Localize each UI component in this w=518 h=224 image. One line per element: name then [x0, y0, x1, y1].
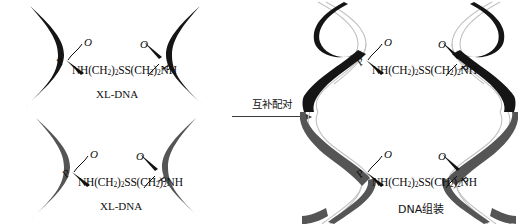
- panel-bottom-left-xl-dna: P O P O NH(CH2)2SS(CH2)2NH: [0, 112, 230, 224]
- caption-top-left: XL-DNA: [96, 88, 138, 100]
- panel-top-right-assembly: P O P O NH(CH2)2SS(CH2)2NH: [300, 0, 518, 112]
- crosslinker-formula: NH(CH2)2SS(CH2)2NH: [372, 64, 477, 77]
- formula-part-5: NH: [461, 176, 477, 188]
- formula-part-5: NH: [161, 64, 177, 76]
- formula-part-1: NH(CH: [78, 176, 113, 188]
- crosslinker-formula: NH(CH2)2SS(CH2)2NH: [78, 176, 183, 189]
- formula-part-5: NH: [167, 176, 183, 188]
- formula-part-1: NH(CH: [372, 176, 407, 188]
- strand-left-gray-tail: [302, 208, 328, 224]
- formula-part-1: NH(CH: [372, 64, 407, 76]
- crosslinker-formula: NH(CH2)2SS(CH2)2NH: [72, 64, 177, 77]
- strand-right-dark: [166, 6, 204, 106]
- caption-bottom-right: DNA组装: [398, 200, 444, 216]
- dna-assembly-figure: P O P O NH(CH2)2SS(C: [0, 0, 518, 224]
- crosslinker-formula: NH(CH2)2SS(CH2)2NH: [372, 176, 477, 189]
- formula-part-3: SS(CH: [418, 176, 450, 188]
- strand-right-gray: [162, 118, 200, 218]
- formula-part-3: SS(CH: [118, 64, 150, 76]
- caption-bottom-left: XL-DNA: [100, 200, 142, 212]
- formula-part-5: NH: [461, 64, 477, 76]
- arrow-line: [232, 116, 306, 117]
- formula-part-1: NH(CH: [72, 64, 107, 76]
- strand-right-gray-tail: [490, 208, 516, 224]
- formula-part-3: SS(CH: [124, 176, 156, 188]
- panel-bottom-right-assembly: P O P O NH(CH2)2SS(CH2)2NH: [300, 112, 518, 224]
- strand-left-dark: [314, 2, 362, 57]
- panel-top-left-xl-dna: P O P O NH(CH2)2SS(C: [0, 0, 230, 112]
- formula-part-3: SS(CH: [418, 64, 450, 76]
- helix-top-right: [300, 0, 518, 112]
